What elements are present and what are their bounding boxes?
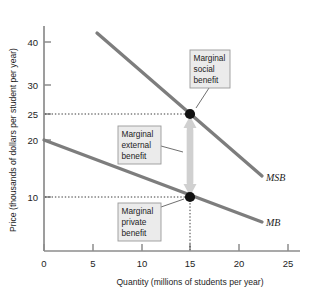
x-tick-label-25: 25 — [283, 258, 294, 269]
leader-private — [161, 199, 184, 207]
x-tick-label-5: 5 — [90, 258, 95, 269]
y-tick-label-40: 40 — [27, 37, 38, 48]
x-tick-label-10: 10 — [137, 258, 148, 269]
x-tick-label-20: 20 — [234, 258, 245, 269]
marginal-external-benefit-arrow — [184, 116, 197, 196]
x-ticks-group — [44, 244, 288, 251]
marginal-social-benefit-point — [185, 109, 195, 119]
x-axis-title: Quantity (millions of students per year) — [116, 277, 263, 287]
y-tick-label-25: 25 — [27, 109, 38, 120]
economics-chart-figure: 40 30 25 20 10 0 5 10 15 20 25 Quantity … — [0, 0, 315, 295]
callout-private-line1: Marginal — [122, 206, 154, 216]
y-axis-title: Price (thousands of dollars per student … — [8, 48, 18, 232]
leader-lines-group — [161, 88, 209, 207]
callout-social-line2: social — [194, 64, 215, 74]
y-tick-label-20: 20 — [27, 135, 38, 146]
y-tick-labels-group: 40 30 25 20 10 — [27, 37, 38, 203]
x-tick-label-15: 15 — [185, 258, 196, 269]
callout-private-line3: benefit — [122, 228, 148, 238]
x-tick-labels-group: 0 5 10 15 20 25 — [41, 258, 293, 269]
callout-external-line2: external — [122, 140, 152, 150]
callout-marginal-external-benefit[interactable]: Marginal external benefit — [118, 126, 161, 164]
y-tick-label-30: 30 — [27, 80, 38, 91]
y-tick-label-10: 10 — [27, 192, 38, 203]
callout-marginal-private-benefit[interactable]: Marginal private benefit — [118, 203, 161, 241]
mb-curve-label: MB — [265, 217, 280, 228]
callout-social-line1: Marginal — [194, 53, 226, 63]
msb-curve-label: MSB — [265, 172, 285, 183]
callout-external-line3: benefit — [122, 151, 148, 161]
arrow-head-down — [184, 130, 197, 196]
leader-external — [161, 146, 183, 152]
callout-marginal-social-benefit[interactable]: Marginal social benefit — [190, 50, 230, 88]
guide-lines-group — [45, 114, 190, 250]
callout-private-line2: private — [122, 217, 147, 227]
axes-group — [44, 26, 300, 251]
callout-social-line3: benefit — [194, 75, 220, 85]
chart-canvas: 40 30 25 20 10 0 5 10 15 20 25 Quantity … — [0, 0, 315, 295]
x-tick-label-0: 0 — [41, 258, 46, 269]
callout-external-line1: Marginal — [122, 129, 154, 139]
leader-social — [196, 88, 209, 108]
y-ticks-group — [44, 42, 51, 197]
marginal-private-benefit-point — [185, 192, 195, 202]
